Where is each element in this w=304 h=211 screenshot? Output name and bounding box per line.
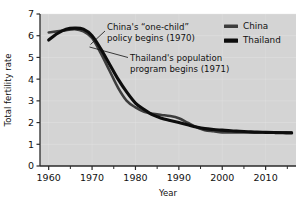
legend-swatch-china [224,25,238,29]
annotation-china-policy: China's “one-child” policy begins (1970) [107,22,195,43]
legend-label-china: China [243,21,268,31]
y-tick-label: 0 [28,160,34,171]
x-tick-label: 1990 [167,172,191,183]
chart-svg: 01234567 196019701980199020002010 China'… [0,0,304,211]
x-axis-title: Year [158,188,178,198]
legend-label-thailand: Thailand [242,35,281,45]
x-tick-label: 1960 [37,172,61,183]
x-tick-label: 1970 [80,172,104,183]
y-tick-label: 1 [28,139,34,150]
annotation-china-line2: policy begins (1970) [107,33,195,43]
y-tick-label: 4 [28,74,34,85]
y-tick-label: 5 [28,52,34,63]
fertility-rate-chart: 01234567 196019701980199020002010 China'… [0,0,304,211]
annotation-china-line1: China's “one-child” [107,22,189,32]
y-tick-label: 6 [28,30,34,41]
y-tick-label: 3 [28,95,34,106]
annotation-thailand-line2: program begins (1971) [130,64,229,74]
x-tick-label: 2000 [210,172,234,183]
x-tick-label: 2010 [254,172,278,183]
legend-swatch-thailand [224,39,238,43]
x-tick-label: 1980 [123,172,147,183]
y-tick-label: 7 [28,8,34,19]
annotation-thailand-line1: Thailand's population [129,53,222,63]
annotation-thailand-program: Thailand's population program begins (19… [129,53,229,74]
y-axis-title: Total fertility rate [3,53,13,127]
y-tick-label: 2 [28,117,34,128]
